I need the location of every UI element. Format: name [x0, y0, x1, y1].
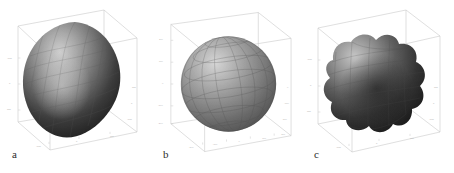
svg-text:-200: -200: [7, 57, 12, 60]
svg-text:0: 0: [162, 82, 164, 85]
svg-text:-400: -400: [189, 146, 194, 149]
svg-text:0: 0: [287, 86, 289, 89]
svg-text:-200: -200: [429, 118, 434, 121]
svg-text:0: 0: [9, 82, 11, 85]
svg-text:-200: -200: [284, 102, 289, 105]
svg-text:0: 0: [131, 102, 133, 105]
panel-b-surface: [175, 30, 282, 139]
svg-text:-200: -200: [336, 146, 341, 149]
panel-b-label: b: [163, 148, 169, 160]
panel-c-plot: -200 0 200 -200 0 200 -200 0 200: [302, 0, 454, 173]
svg-text:200: 200: [7, 108, 12, 111]
panel-c: -200 0 200 -200 0 200 -200 0 200 c: [302, 0, 454, 173]
svg-text:-200: -200: [213, 143, 218, 146]
svg-text:200: 200: [132, 86, 137, 89]
svg-text:-200: -200: [36, 145, 41, 148]
panel-a-plot: -200 0 200 -200 0 200 -200 0 200: [0, 0, 151, 173]
svg-text:0: 0: [76, 140, 78, 143]
panel-c-surface: [324, 35, 425, 133]
svg-text:0: 0: [310, 84, 312, 87]
svg-text:200: 200: [434, 86, 439, 89]
svg-text:-400: -400: [282, 118, 287, 121]
svg-text:400: 400: [281, 133, 286, 136]
svg-text:0: 0: [376, 142, 378, 145]
panel-b: 400 200 0 -200 -400 -400 -200 0 200 400 …: [151, 0, 302, 173]
svg-text:200: 200: [307, 110, 312, 113]
panel-a-surface: [23, 22, 120, 138]
svg-text:-200: -200: [158, 104, 163, 107]
svg-text:-200: -200: [307, 58, 312, 61]
svg-text:-400: -400: [158, 122, 163, 125]
three-panel-3d-surface-figure: -200 0 200 -200 0 200 -200 0 200 a: [0, 0, 454, 173]
panel-a-label: a: [12, 148, 17, 160]
svg-text:-200: -200: [127, 118, 132, 121]
svg-text:200: 200: [262, 137, 267, 140]
panel-c-label: c: [314, 148, 319, 160]
panel-b-plot: 400 200 0 -200 -400 -400 -200 0 200 400 …: [151, 0, 302, 173]
svg-text:0: 0: [433, 102, 435, 105]
svg-text:400: 400: [159, 38, 164, 41]
svg-text:0: 0: [238, 140, 240, 143]
svg-text:200: 200: [159, 60, 164, 63]
panel-a: -200 0 200 -200 0 200 -200 0 200 a: [0, 0, 151, 173]
svg-text:200: 200: [410, 137, 415, 140]
